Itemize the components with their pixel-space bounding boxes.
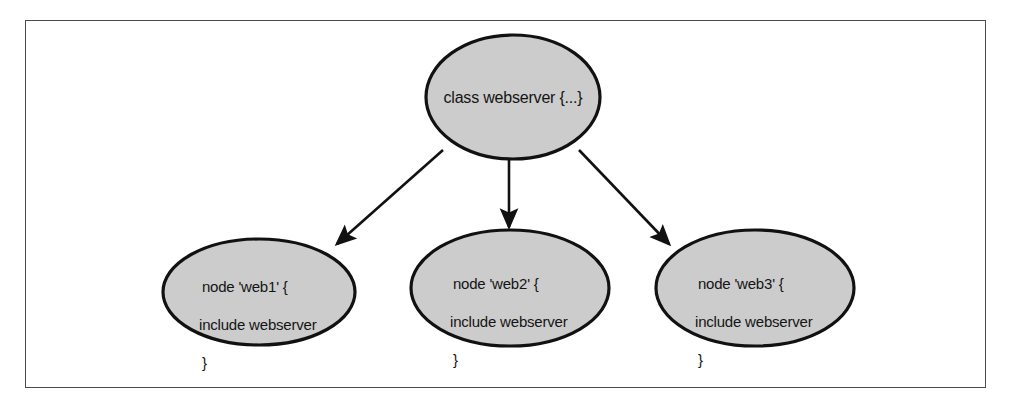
figure-container: class webserver {...} node 'web1' { incl… bbox=[0, 0, 1011, 408]
node-web3 bbox=[656, 230, 854, 346]
edge-root-web1 bbox=[337, 150, 443, 244]
diagram-canvas bbox=[0, 0, 1011, 408]
node-class-webserver bbox=[426, 35, 600, 159]
node-web1 bbox=[163, 239, 355, 345]
node-web2 bbox=[411, 230, 609, 346]
edge-root-web3 bbox=[579, 150, 669, 244]
